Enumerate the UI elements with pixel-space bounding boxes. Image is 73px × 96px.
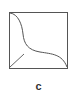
diagonal-line — [10, 54, 24, 67]
panel-label: c — [0, 80, 73, 92]
square-frame — [10, 13, 68, 69]
